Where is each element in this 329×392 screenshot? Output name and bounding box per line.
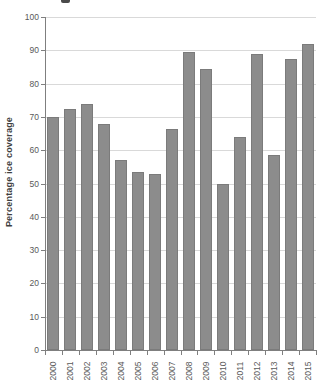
x-label-2008: 2008: [184, 354, 194, 388]
bar-2008: [183, 52, 195, 350]
y-tick-label-0: 0: [0, 345, 39, 355]
y-tick-label-10: 10: [0, 312, 39, 322]
bar-2000: [47, 117, 59, 350]
x-axis-tick-11: [231, 351, 232, 355]
x-label-2000: 2000: [48, 354, 58, 388]
x-label-2013: 2013: [269, 354, 279, 388]
x-axis-tick-8: [181, 351, 182, 355]
x-axis-tick-13: [265, 351, 266, 355]
bar-2004: [115, 160, 127, 350]
x-label-2002: 2002: [82, 354, 92, 388]
bar-2015: [302, 44, 314, 350]
x-label-2011: 2011: [235, 354, 245, 388]
bar-2013: [268, 155, 280, 350]
y-tick-label-20: 20: [0, 278, 39, 288]
x-axis-tick-2: [79, 351, 80, 355]
bar-chart-figure: Percentage ice coverage 0102030405060708…: [0, 0, 329, 392]
x-label-2006: 2006: [150, 354, 160, 388]
x-axis-tick-7: [164, 351, 165, 355]
y-tick-label-100: 100: [0, 12, 39, 22]
x-axis-tick-6: [147, 351, 148, 355]
bar-2001: [64, 109, 76, 350]
y-tick-label-80: 80: [0, 79, 39, 89]
bar-2011: [234, 137, 246, 350]
x-label-2001: 2001: [65, 354, 75, 388]
x-label-2004: 2004: [116, 354, 126, 388]
bar-2006: [149, 174, 161, 350]
gridline-80: [45, 84, 316, 85]
y-tick-label-70: 70: [0, 112, 39, 122]
x-axis-tick-9: [197, 351, 198, 355]
x-axis-tick-3: [96, 351, 97, 355]
y-tick-label-60: 60: [0, 145, 39, 155]
x-axis-tick-5: [130, 351, 131, 355]
y-tick-label-90: 90: [0, 45, 39, 55]
y-axis-title: Percentage ice coverage: [4, 117, 14, 227]
bar-2003: [98, 124, 110, 350]
bar-2007: [166, 129, 178, 350]
x-label-2010: 2010: [218, 354, 228, 388]
bar-2009: [200, 69, 212, 350]
x-label-2012: 2012: [252, 354, 262, 388]
x-axis-tick-16: [316, 351, 317, 355]
x-axis-tick-0: [45, 351, 46, 355]
x-label-2007: 2007: [167, 354, 177, 388]
cropped-title-fragment: [61, 0, 70, 3]
bar-2014: [285, 59, 297, 350]
gridline-100: [45, 17, 316, 18]
x-label-2014: 2014: [286, 354, 296, 388]
x-label-2003: 2003: [99, 354, 109, 388]
y-axis-line: [45, 17, 46, 351]
x-label-2015: 2015: [303, 354, 313, 388]
bar-2012: [251, 54, 263, 350]
x-axis-tick-15: [299, 351, 300, 355]
x-axis-tick-12: [248, 351, 249, 355]
bar-2010: [217, 184, 229, 351]
x-label-2009: 2009: [201, 354, 211, 388]
x-axis-tick-14: [282, 351, 283, 355]
x-axis-tick-4: [113, 351, 114, 355]
y-tick-label-50: 50: [0, 179, 39, 189]
y-tick-label-30: 30: [0, 245, 39, 255]
x-axis-tick-1: [62, 351, 63, 355]
gridline-90: [45, 50, 316, 51]
y-tick-label-40: 40: [0, 212, 39, 222]
x-axis-tick-10: [214, 351, 215, 355]
bar-2002: [81, 104, 93, 350]
bar-2005: [132, 172, 144, 350]
x-label-2005: 2005: [133, 354, 143, 388]
